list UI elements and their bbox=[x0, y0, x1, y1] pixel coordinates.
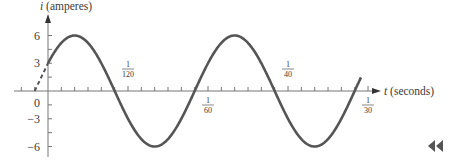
y-tick-label: 6 bbox=[34, 29, 40, 43]
x-tick-label-denominator: 30 bbox=[364, 106, 372, 115]
x-tick-label-numerator: 1 bbox=[206, 96, 210, 105]
y-axis-title: i (amperes) bbox=[40, 0, 92, 13]
x-axis-arrow-icon bbox=[372, 88, 381, 94]
x-axis-title: t (seconds) bbox=[384, 85, 434, 98]
axis-labels: 630−3−61120160140130i (amperes)t (second… bbox=[27, 0, 434, 154]
x-axis-unit: (seconds) bbox=[390, 85, 434, 98]
y-axis-arrow-icon bbox=[45, 14, 51, 23]
y-tick-label: −6 bbox=[27, 140, 40, 154]
y-tick-label: 0 bbox=[34, 96, 40, 110]
y-tick-label: 3 bbox=[34, 56, 40, 70]
x-tick-label-numerator: 1 bbox=[286, 60, 290, 69]
y-axis-unit: (amperes) bbox=[46, 0, 92, 13]
y-tick-label: −3 bbox=[27, 112, 40, 126]
x-tick-label-numerator: 1 bbox=[126, 60, 130, 69]
double-left-arrow-icon bbox=[428, 140, 444, 152]
back-nav-button[interactable] bbox=[428, 138, 444, 150]
current-sine-chart: 630−3−61120160140130i (amperes)t (second… bbox=[0, 0, 453, 164]
x-tick-label-denominator: 60 bbox=[204, 106, 212, 115]
x-tick-label-numerator: 1 bbox=[366, 96, 370, 105]
x-tick-label-denominator: 120 bbox=[122, 70, 134, 79]
x-tick-label-denominator: 40 bbox=[284, 70, 292, 79]
